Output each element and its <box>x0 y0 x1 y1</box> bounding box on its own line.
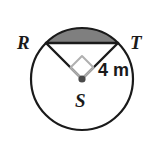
geometry-figure: R T S 4 m <box>0 0 156 145</box>
label-point-r: R <box>16 32 30 53</box>
label-radius-measure: 4 m <box>98 60 129 80</box>
center-point-dot <box>78 75 85 82</box>
label-point-t: T <box>130 32 143 53</box>
circle-diagram-svg: R T S 4 m <box>0 0 156 145</box>
label-point-s: S <box>75 90 86 111</box>
